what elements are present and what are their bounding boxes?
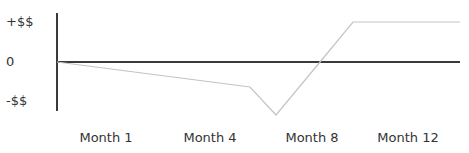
y-tick-negative: -$$: [6, 93, 46, 109]
x-tick-month-1: Month 1: [79, 130, 132, 146]
y-tick-positive: +$$: [6, 14, 46, 30]
y-tick-zero: 0: [6, 54, 46, 70]
x-tick-month-4: Month 4: [183, 130, 236, 146]
cash-flow-line: [57, 22, 460, 115]
cash-flow-chart: +$$ 0 -$$ Month 1 Month 4 Month 8 Month …: [0, 0, 469, 153]
x-tick-month-12: Month 12: [377, 130, 438, 146]
x-tick-month-8: Month 8: [285, 130, 338, 146]
